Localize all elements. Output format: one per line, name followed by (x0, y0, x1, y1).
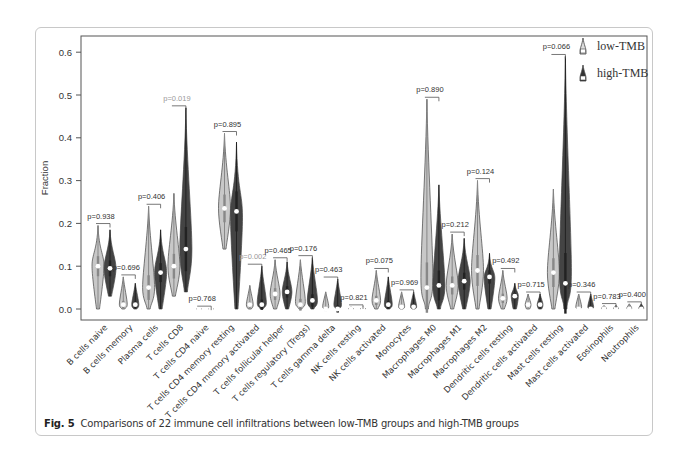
violin-low-tmb (627, 304, 632, 312)
p-value-label: p=0.124 (467, 167, 494, 176)
p-value-label: p=0.492 (492, 256, 519, 265)
y-tick-label: 0.4 (59, 132, 72, 143)
y-axis-label: Fraction (39, 161, 50, 195)
violin-low-tmb (547, 189, 559, 309)
p-value-label: p=0.075 (366, 256, 393, 265)
violin-high-tmb (537, 294, 543, 309)
violin-low-tmb (92, 226, 104, 309)
p-value-label: p=0.768 (189, 294, 216, 303)
legend-label: low-TMB (597, 39, 645, 53)
violin-high-tmb (411, 292, 417, 309)
violin-high-tmb (433, 185, 445, 309)
violin-low-tmb (372, 270, 381, 309)
violin-high-tmb (180, 108, 192, 292)
legend: low-TMBhigh-TMB (580, 38, 648, 81)
y-tick-label: 0.5 (59, 90, 72, 101)
p-value-label: p=0.715 (517, 280, 544, 289)
p-value-label: p=0.895 (214, 120, 241, 129)
p-value-label: p=0.463 (315, 265, 342, 274)
violin-low-tmb (246, 285, 253, 309)
p-value-label: p=0.406 (138, 192, 165, 201)
p-value-label: p=0.465 (264, 246, 291, 255)
violin-low-tmb (399, 292, 405, 309)
violin-low-tmb (119, 277, 127, 309)
y-tick-label: 0.1 (59, 261, 72, 272)
caption-label: Fig. 5 (44, 418, 74, 429)
violin-low-tmb (576, 294, 582, 311)
p-value-label: p=0.176 (290, 244, 317, 253)
violin-low-tmb (197, 307, 202, 312)
violin-low-tmb (143, 206, 155, 309)
p-value-label: p=0.783 (593, 292, 620, 301)
violin-high-tmb (231, 142, 243, 309)
p-bracket (298, 256, 312, 260)
p-value-label: p=0.212 (442, 220, 469, 229)
violin-low-tmb (323, 292, 329, 312)
y-tick-label: 0.6 (59, 47, 72, 58)
violin-low-tmb (421, 99, 433, 312)
p-value-label: p=0.821 (340, 293, 367, 302)
y-tick-label: 0.2 (59, 218, 72, 229)
p-value-label: p=0.969 (391, 278, 418, 287)
violin-high-tmb (458, 238, 470, 309)
p-bracket (172, 106, 186, 110)
p-value-label: p=0.002 (239, 252, 266, 261)
caption-text: Comparisons of 22 immune cell infiltrati… (80, 418, 518, 429)
violin-low-tmb (602, 306, 607, 312)
violin-low-tmb (498, 270, 507, 309)
violin-low-tmb (349, 307, 354, 312)
violin-high-tmb (257, 266, 266, 310)
p-value-label: p=0.400 (619, 290, 646, 299)
violin-low-tmb (446, 234, 458, 309)
legend-label: high-TMB (597, 66, 648, 80)
figure-caption: Fig. 5 Comparisons of 22 immune cell inf… (44, 418, 519, 429)
violin-low-tmb (270, 260, 280, 309)
violin-low-tmb (472, 181, 484, 309)
p-value-label: p=0.938 (87, 212, 114, 221)
p-bracket (324, 277, 338, 281)
violin-high-tmb (559, 56, 571, 313)
violin-high-tmb (132, 283, 139, 309)
violin-chart: 0.00.10.20.30.40.50.6Fractionp=0.938B ce… (0, 0, 687, 459)
violin-low-tmb (295, 260, 305, 311)
violin-low-tmb (168, 193, 180, 296)
p-value-label: p=0.019 (163, 94, 190, 103)
violin-high-tmb (282, 262, 292, 309)
p-bracket (551, 54, 565, 58)
violin-high-tmb (155, 230, 167, 309)
p-bracket (248, 264, 262, 268)
y-tick-label: 0.3 (59, 175, 72, 186)
p-value-label: p=0.346 (568, 280, 595, 289)
violin-low-tmb (219, 134, 231, 250)
p-value-label: p=0.066 (543, 42, 570, 51)
violin-low-tmb (525, 294, 531, 309)
p-value-label: p=0.890 (416, 85, 443, 94)
y-tick-label: 0.0 (59, 304, 72, 315)
p-value-label: p=0.696 (113, 263, 140, 272)
